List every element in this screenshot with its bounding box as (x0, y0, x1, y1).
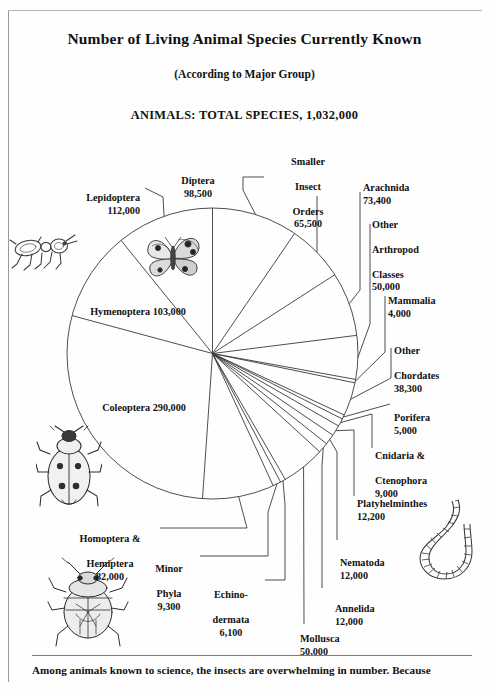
leader-minor-phyla (200, 484, 277, 556)
label-smaller-l2: Insect (295, 181, 321, 192)
leader-nematoda (330, 440, 337, 540)
label-smaller-insect-orders: Smaller Insect Orders 65,500 (275, 144, 341, 243)
label-lepidoptera-name: Lepidoptera (86, 192, 140, 203)
label-otherarth-l3: Classes (372, 269, 404, 280)
label-other-chordates: Other Chordates 38,300 (394, 333, 484, 407)
label-minorphyla-l1: Minor (155, 563, 183, 574)
leader-annelida (322, 448, 323, 588)
label-mammalia-name: Mammalia (388, 295, 436, 306)
label-diptera-name: Diptera (181, 175, 214, 186)
label-otherarth-l1: Other (372, 219, 398, 230)
label-porifera-name: Porifera (394, 412, 430, 423)
label-platy-name: Platyhelminthes (357, 498, 427, 509)
label-nematoda: Nematoda 12,000 (340, 545, 426, 595)
label-arachnida-name: Arachnida (363, 182, 409, 193)
label-diptera: Diptera 98,500 (160, 163, 236, 213)
label-platyhelminthes: Platyhelminthes 12,200 (357, 486, 467, 536)
label-nematoda-name: Nematoda (340, 557, 385, 568)
pie-slice-divider (203, 354, 213, 499)
label-cnidaria-l1: Cnidaria & (375, 450, 425, 461)
pie-slice-divider (213, 275, 335, 354)
label-platy-value: 12,200 (357, 511, 467, 523)
label-homoptera-l2: Hemiptera (87, 558, 134, 569)
label-otherchord-value: 38,300 (394, 383, 484, 395)
leader-arachnida (349, 192, 360, 304)
leader-diptera (243, 177, 264, 214)
label-hymenoptera-name: Hymenoptera (90, 306, 150, 317)
label-homoptera-l1: Homoptera & (80, 533, 141, 544)
butterfly-illustration (142, 228, 204, 286)
label-smaller-l1: Smaller (291, 156, 325, 167)
pie-slice-divider (213, 233, 295, 353)
label-lepidoptera: Lepidoptera 112,000 (36, 180, 140, 230)
pie-slice-divider (72, 316, 212, 354)
label-nematoda-value: 12,000 (340, 570, 426, 582)
label-minorphyla-l2: Phyla (157, 588, 182, 599)
pie-chart-figure: Lepidoptera 112,000 Diptera 98,500 Small… (0, 0, 489, 690)
label-coleoptera-value: 290,000 (153, 402, 186, 413)
label-lepidoptera-value: 112,000 (36, 205, 140, 217)
pie-slice-divider (213, 335, 357, 353)
label-smaller-l3: Orders (292, 206, 323, 217)
label-hymenoptera-value: 103,000 (153, 306, 186, 317)
label-mammalia-value: 4,000 (388, 308, 480, 320)
pie-slice-divider (213, 354, 356, 380)
label-otherchord-l2: Chordates (394, 370, 439, 381)
pie-slice-divider (213, 354, 320, 452)
label-hymenoptera: Hymenoptera 103,000 (82, 306, 194, 319)
label-coleoptera-name: Coleoptera (102, 402, 150, 413)
pie-slice-divider (213, 354, 274, 486)
ant-illustration (8, 228, 88, 276)
label-annelida-name: Annelida (335, 603, 375, 614)
page-canvas: Number of Living Animal Species Currentl… (0, 0, 489, 690)
label-otherarth-l2: Arthropod (372, 244, 419, 255)
pie-slice-divider (213, 354, 286, 480)
pie-slice-group (67, 208, 358, 499)
footer-caption: Among animals known to science, the inse… (32, 664, 478, 676)
label-echinodermata: Echino- dermata 6,100 (196, 577, 266, 651)
label-echino-l1: Echino- (214, 589, 248, 600)
label-mammalia: Mammalia 4,000 (388, 283, 480, 333)
label-echino-value: 6,100 (196, 627, 266, 639)
label-minorphyla-value: 9,300 (140, 601, 198, 613)
label-mollusca-name: Mollusca (300, 633, 340, 644)
leader-platyhelminthes (336, 430, 354, 496)
label-smaller-value: 65,500 (275, 218, 341, 230)
leader-cnidaria-ctenophora (341, 414, 372, 448)
label-homoptera-value: 82,000 (62, 571, 158, 583)
label-porifera-value: 5,000 (394, 425, 484, 437)
leader-homoptera-hemiptera (160, 497, 247, 528)
label-cnidaria-l2: Ctenophora (375, 475, 427, 486)
label-echino-l2: dermata (213, 614, 250, 625)
footer-divider (32, 655, 472, 656)
label-otherchord-l1: Other (394, 345, 420, 356)
label-homoptera-hemiptera: Homoptera & Hemiptera 82,000 (62, 521, 158, 595)
label-coleoptera: Coleoptera 290,000 (92, 402, 196, 415)
label-mollusca-value: 50,000 (300, 646, 384, 658)
label-diptera-value: 98,500 (160, 188, 236, 200)
beetle-illustration (36, 424, 102, 516)
pie-slice-divider (213, 354, 343, 420)
label-arachnida-value: 73,400 (363, 195, 453, 207)
